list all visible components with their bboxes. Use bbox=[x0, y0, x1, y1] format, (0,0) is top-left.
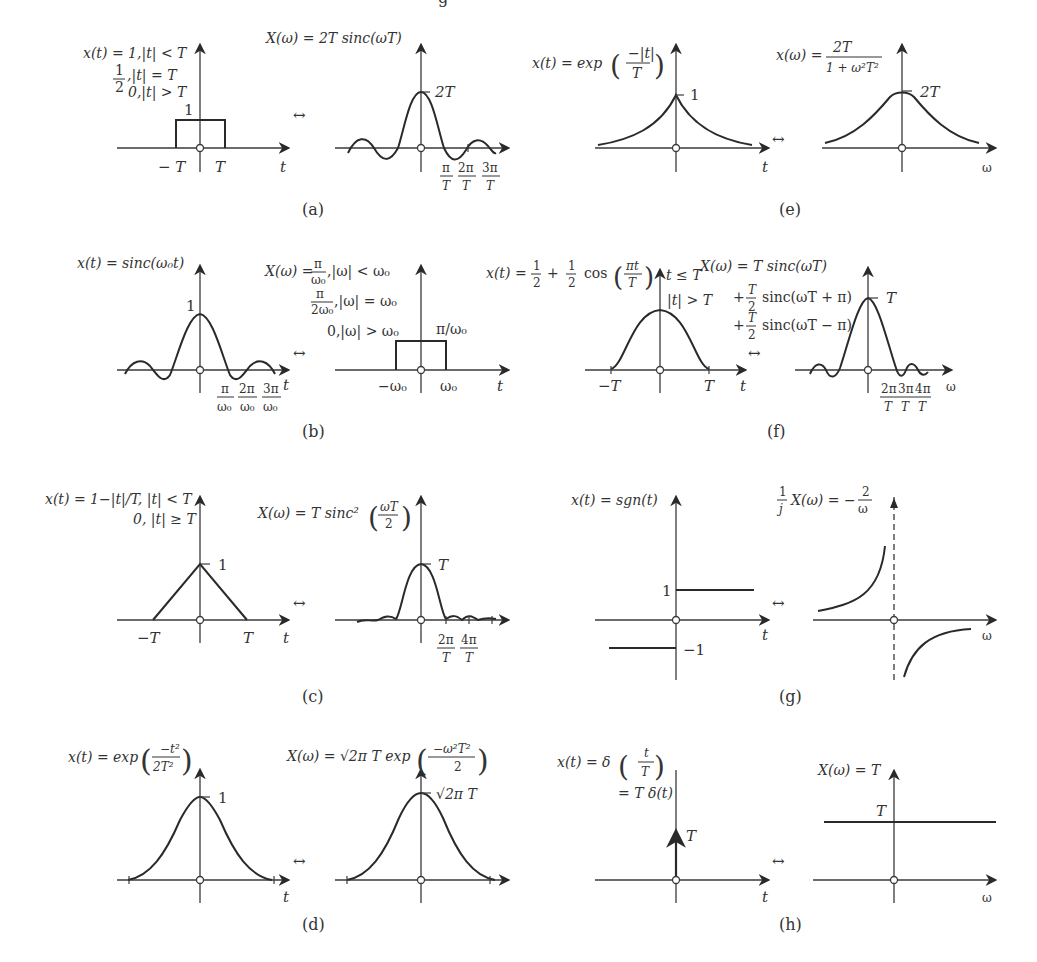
svg-text:): ) bbox=[401, 501, 412, 534]
pos-label: 1 bbox=[662, 582, 672, 600]
tick-omega0: ω₀ bbox=[440, 378, 457, 394]
svg-text:2T: 2T bbox=[832, 39, 853, 55]
svg-text:T: T bbox=[442, 179, 451, 193]
svg-text:2π: 2π bbox=[458, 161, 474, 175]
origin-marker bbox=[418, 145, 425, 152]
svg-text:−t²: −t² bbox=[160, 742, 180, 756]
svg-text:T: T bbox=[641, 765, 650, 779]
panel-f: x(t) = 1 2 + 1 2 cos ( πt T ) t ≤ T |t| … bbox=[486, 258, 956, 441]
sinc-squared-curve bbox=[357, 564, 496, 622]
t-axis-label: t bbox=[283, 888, 290, 906]
caption-e: (e) bbox=[779, 200, 801, 219]
time-eq-prefix: x(t) = exp bbox=[532, 55, 602, 71]
peak-label: 1 bbox=[690, 86, 700, 104]
svg-text:2: 2 bbox=[862, 485, 870, 499]
time-eq-line1: x(t) = 1,|t| < T bbox=[83, 45, 188, 62]
svg-text:(: ( bbox=[618, 750, 629, 783]
origin-marker bbox=[197, 367, 204, 374]
freq-eq: X(ω) = 2T sinc(ωT) bbox=[265, 30, 402, 46]
peak-label: 2T bbox=[434, 83, 456, 101]
panel-d: x(t) = exp ( −t² 2T² ) 1 t ↔ X(ω) = √2π … bbox=[68, 742, 508, 934]
origin-marker bbox=[865, 367, 872, 374]
transform-pair-arrow: ↔ bbox=[293, 344, 306, 362]
svg-text:): ) bbox=[644, 262, 654, 292]
caption-g: (g) bbox=[779, 687, 802, 706]
svg-text:(: ( bbox=[368, 501, 379, 534]
time-eq-half-num: 1 bbox=[115, 62, 124, 78]
svg-text:2T²: 2T² bbox=[152, 760, 174, 774]
caption-c: (c) bbox=[302, 687, 323, 706]
tick-neg-T: − T bbox=[158, 158, 186, 176]
origin-marker bbox=[891, 617, 898, 624]
svg-text:+: + bbox=[733, 289, 745, 305]
panel-g-freq-plot: 1 j X(ω) = − 2 ω ω bbox=[776, 485, 995, 680]
svg-text:T: T bbox=[486, 179, 495, 193]
svg-text:ω₀: ω₀ bbox=[240, 400, 255, 414]
omega-axis-label: ω bbox=[982, 629, 992, 643]
caption-h: (h) bbox=[779, 915, 802, 934]
svg-text:ω₀: ω₀ bbox=[263, 400, 278, 414]
svg-text:3π: 3π bbox=[482, 161, 498, 175]
svg-text:2ω₀: 2ω₀ bbox=[311, 303, 333, 317]
origin-marker bbox=[418, 617, 425, 624]
panel-h-time-plot: x(t) = δ ( t T ) = T δ(t) T t bbox=[557, 746, 769, 906]
level-label: T bbox=[876, 802, 887, 820]
peak-label: T bbox=[438, 556, 449, 574]
freq-eq-mid: X(ω) = − bbox=[790, 492, 856, 508]
svg-text:T: T bbox=[465, 651, 474, 665]
freq-eq-prefix: X(ω) = √2π T exp bbox=[286, 748, 410, 764]
t-axis-label: t bbox=[762, 888, 769, 906]
peak-label: 1 bbox=[186, 297, 196, 315]
svg-text:(: ( bbox=[610, 49, 621, 82]
svg-text:2: 2 bbox=[748, 328, 756, 342]
svg-text:ωT: ωT bbox=[380, 500, 399, 514]
svg-text:−ω²T²: −ω²T² bbox=[433, 742, 471, 756]
panel-f-time-plot: x(t) = 1 2 + 1 2 cos ( πt T ) t ≤ T |t| … bbox=[486, 259, 747, 395]
two-sided-exponential-curve bbox=[598, 95, 752, 145]
origin-marker bbox=[891, 877, 898, 884]
svg-text:+: + bbox=[733, 317, 745, 333]
origin-marker bbox=[673, 877, 680, 884]
origin-marker bbox=[197, 617, 204, 624]
svg-text:): ) bbox=[654, 750, 665, 783]
origin-marker bbox=[418, 877, 425, 884]
hyperbola-right-branch bbox=[904, 629, 971, 677]
svg-text:ω: ω bbox=[858, 502, 868, 516]
omega-axis-label: ω bbox=[982, 161, 992, 175]
svg-text:j: j bbox=[776, 502, 783, 516]
svg-text:2π: 2π bbox=[438, 633, 454, 647]
time-eq-line3: 0,|t| > T bbox=[128, 84, 188, 101]
svg-text:): ) bbox=[477, 743, 489, 778]
svg-text:πt: πt bbox=[625, 259, 639, 273]
panel-e: x(t) = exp ( −|t| T ) 1 t ↔ x(ω) = 2T 1 … bbox=[532, 39, 995, 219]
t-axis-label: t bbox=[283, 629, 290, 647]
freq-ticks: 2π T 3π T 4π T bbox=[880, 382, 931, 414]
origin-marker bbox=[197, 877, 204, 884]
origin-marker bbox=[673, 617, 680, 624]
svg-text:(: ( bbox=[140, 743, 152, 778]
peak-label: 1 bbox=[218, 789, 228, 807]
svg-text:2: 2 bbox=[385, 517, 393, 531]
panel-g-time-plot: x(t) = sgn(t) 1 −1 t bbox=[571, 492, 769, 680]
tick-T: T bbox=[243, 629, 254, 647]
freq-eq-line3: sinc(ωT − π) bbox=[762, 317, 852, 333]
height-label: π/ω₀ bbox=[436, 321, 467, 337]
figure-canvas: g x(t) = 1,|t| < T 1 2 ,|t| = T 0,|t| > … bbox=[0, 0, 1037, 962]
svg-text:1: 1 bbox=[568, 259, 576, 273]
origin-marker bbox=[673, 145, 680, 152]
svg-text:T: T bbox=[628, 276, 637, 290]
svg-text:ω₀: ω₀ bbox=[311, 273, 326, 287]
svg-text:T: T bbox=[918, 400, 927, 414]
svg-text:,|ω| < ω₀: ,|ω| < ω₀ bbox=[327, 263, 390, 280]
panel-f-freq-plot: X(ω) = T sinc(ωT) + T 2 sinc(ωT + π) + T… bbox=[699, 258, 956, 414]
svg-text:π: π bbox=[316, 287, 324, 301]
freq-eq: X(ω) = T bbox=[817, 762, 882, 778]
panel-c-time-plot: x(t) = 1−|t|/T, |t| < T 0, |t| ≥ T 1 −T … bbox=[45, 491, 290, 647]
tick-num: π bbox=[442, 161, 450, 175]
svg-text:1: 1 bbox=[779, 485, 787, 499]
panel-c-freq-plot: X(ω) = T sinc² ( ωT 2 ) T 2π T 4π T bbox=[257, 497, 508, 665]
svg-text:2: 2 bbox=[533, 276, 541, 290]
height-label: 1 bbox=[184, 101, 194, 119]
t-axis-label: t bbox=[280, 158, 287, 176]
time-eq-line1: x(t) = 1−|t|/T, |t| < T bbox=[45, 491, 193, 508]
